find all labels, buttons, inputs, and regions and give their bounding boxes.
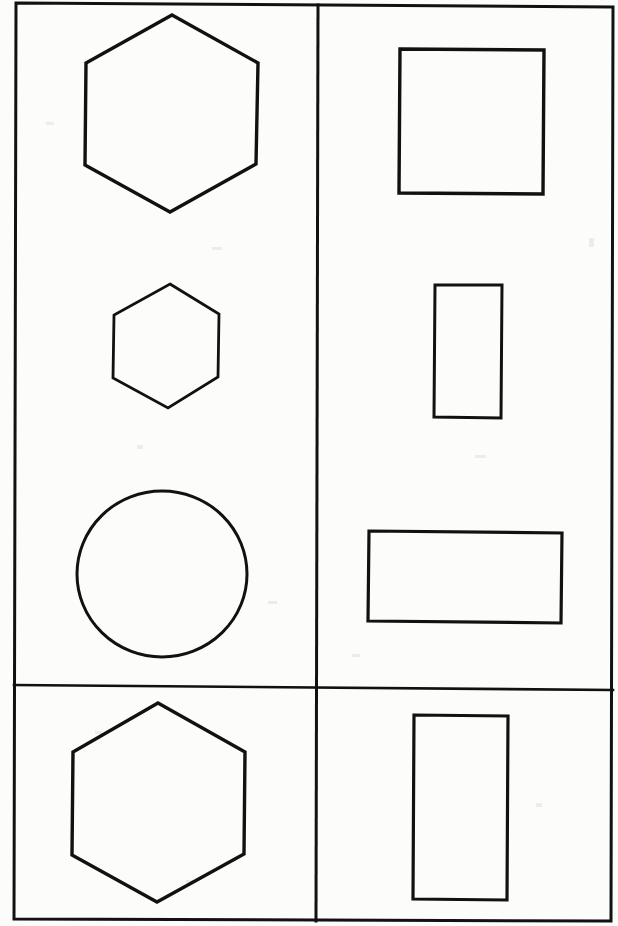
paper-speck	[95, 731, 102, 734]
paper-speck	[475, 455, 486, 458]
paper-speck	[536, 803, 542, 807]
paper-speck	[352, 654, 360, 657]
paper-speck	[268, 601, 277, 604]
vertical-divider	[316, 5, 318, 921]
paper-speck	[589, 238, 594, 247]
paper-speck	[137, 445, 143, 449]
worksheet-page	[0, 0, 618, 926]
paper-speck	[212, 247, 222, 250]
paper-speck	[46, 122, 54, 125]
shapes-drawing-canvas	[0, 0, 618, 926]
paper-background	[0, 0, 618, 926]
